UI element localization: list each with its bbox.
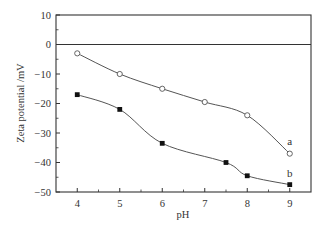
square-marker xyxy=(117,107,122,112)
axis-ticks: 100−10−20−30−40−50456789 xyxy=(35,10,293,210)
square-marker xyxy=(75,92,80,97)
zeta-potential-chart: 100−10−20−30−40−50456789 ab pH Zeta pote… xyxy=(0,0,325,234)
x-axis-label: pH xyxy=(177,209,190,220)
data-series: ab xyxy=(75,51,293,187)
series-line xyxy=(77,53,290,153)
y-tick-label: −50 xyxy=(35,187,51,198)
square-marker xyxy=(245,173,250,178)
series-line xyxy=(77,95,290,185)
x-tick-label: 7 xyxy=(202,198,207,209)
x-tick-label: 8 xyxy=(245,198,250,209)
square-marker xyxy=(160,141,165,146)
x-tick-label: 5 xyxy=(117,198,122,209)
circle-marker xyxy=(75,51,80,56)
circle-marker xyxy=(160,86,165,91)
plot-border xyxy=(56,15,311,192)
y-tick-label: −30 xyxy=(35,128,51,139)
square-marker xyxy=(287,182,292,187)
circle-marker xyxy=(245,113,250,118)
x-tick-label: 4 xyxy=(75,198,81,209)
y-tick-label: −20 xyxy=(35,98,51,109)
series-b: b xyxy=(75,92,293,187)
y-tick-label: −40 xyxy=(35,157,51,168)
circle-marker xyxy=(202,99,207,104)
series-label-b: b xyxy=(287,167,293,179)
x-tick-label: 9 xyxy=(287,198,292,209)
series-label-a: a xyxy=(287,135,292,147)
plot-frame xyxy=(56,15,311,192)
x-tick-label: 6 xyxy=(160,198,165,209)
y-tick-label: 10 xyxy=(41,10,52,21)
y-axis-label: Zeta potential /mV xyxy=(15,63,26,143)
circle-marker xyxy=(117,71,122,76)
square-marker xyxy=(224,160,229,165)
y-tick-label: −10 xyxy=(35,69,51,80)
y-tick-label: 0 xyxy=(46,39,51,50)
circle-marker xyxy=(287,151,292,156)
